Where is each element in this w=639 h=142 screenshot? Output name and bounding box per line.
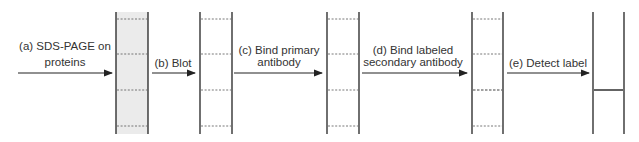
step-b: (b) Blot [152, 57, 195, 73]
step-label: proteins [45, 56, 86, 68]
step-d: (d) Bind labeledsecondary antibody [362, 44, 467, 73]
lane-detected [593, 12, 624, 134]
gel-shading [116, 12, 148, 134]
step-label: secondary antibody [363, 56, 463, 68]
lane-secondary-antibody [472, 12, 503, 134]
lane-gel [116, 12, 148, 134]
step-label: (e) Detect label [509, 57, 587, 69]
lane-blot [200, 12, 232, 134]
step-label: (b) Blot [154, 57, 192, 69]
step-label: antibody [257, 56, 301, 68]
step-label: (d) Bind labeled [373, 44, 454, 56]
step-a: (a) SDS-PAGE onproteins [18, 40, 112, 73]
step-label: (c) Bind primary [238, 44, 319, 56]
step-e: (e) Detect label [507, 57, 589, 73]
step-label: (a) SDS-PAGE on [19, 40, 111, 52]
western-blot-diagram: (a) SDS-PAGE onproteins(b) Blot(c) Bind … [0, 0, 639, 142]
lane-primary-antibody [327, 12, 359, 134]
step-c: (c) Bind primaryantibody [234, 44, 322, 73]
